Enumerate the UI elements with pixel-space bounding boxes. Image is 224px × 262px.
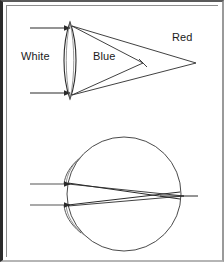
eye-refracted-rays bbox=[68, 183, 198, 206]
eye-ray-bottom-a bbox=[68, 192, 180, 205]
label-blue: Blue bbox=[93, 50, 115, 62]
blue-focus-tick bbox=[139, 59, 147, 67]
eye-ray-top-b bbox=[68, 184, 184, 196]
red-ray-from-bottom bbox=[72, 63, 196, 95]
label-white: White bbox=[21, 50, 50, 62]
eye-ray-bottom-b bbox=[68, 196, 184, 206]
eye-panel-group bbox=[30, 137, 198, 251]
eye-incoming-rays bbox=[30, 184, 70, 205]
figure-root: White Blue Red bbox=[0, 0, 224, 262]
lens-outline bbox=[64, 22, 76, 99]
lens-shape bbox=[64, 22, 76, 99]
label-red: Red bbox=[172, 31, 192, 43]
